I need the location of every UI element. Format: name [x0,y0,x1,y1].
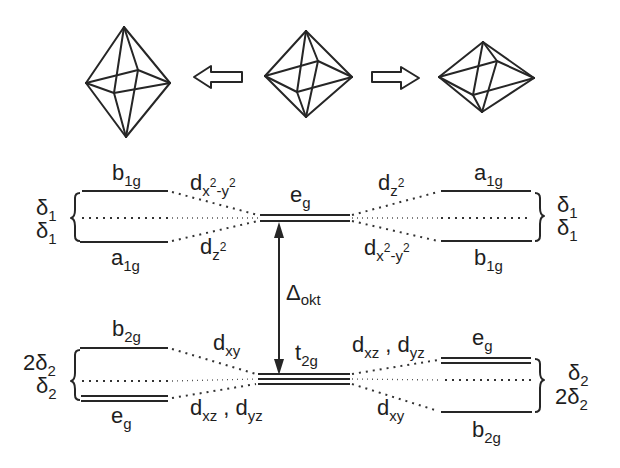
label-dz2-right: dz2 [378,170,405,199]
label-center-t2g: t2g [295,340,318,369]
octahedron-elongated [86,27,170,137]
label-left-b1g: b1g [112,160,141,189]
eg-splitting: b1g a1g dx2-y2 dz2 δ1 δ1 eg a1g b1g dz2 … [36,160,578,274]
connector [352,379,438,380]
connector [172,192,258,215]
arrow-left-icon [194,66,242,88]
crystal-field-diagram: b1g a1g dx2-y2 dz2 δ1 δ1 eg a1g b1g dz2 … [0,0,620,468]
arrow-right-icon [372,67,419,89]
label-left-b2g: b2g [112,316,141,345]
label-dxz-dyz-right: dxz , dyz [352,332,425,361]
label-right-b2g: b2g [472,417,501,446]
label-left-eg: eg [111,403,132,432]
arrowhead-up-icon [274,222,284,238]
label-center-eg: eg [290,182,311,211]
label-delta-okt: Δokt [286,280,322,308]
label-dz2-left: dz2 [200,234,227,263]
t2g-splitting: b2g eg dxy dxz , dyz 2δ2 δ2 t2g eg b2g d… [23,316,589,446]
label-right-a1g: a1g [474,160,503,189]
octahedron-compressed [439,42,534,112]
label-dxy-left: dxy [213,330,241,359]
arrowhead-down-icon [274,359,284,375]
label-left-a1g: a1g [111,245,140,274]
connector [352,360,438,374]
connector [172,379,256,381]
brace-left-upper [71,193,80,241]
label-dx2y2-left: dx2-y2 [190,170,236,199]
brace-left-lower [71,350,80,400]
brace-right-upper [535,193,544,241]
brace-right-lower [535,359,544,412]
octahedron-regular [265,31,352,117]
connector [172,221,258,241]
label-right-eg: eg [472,325,493,354]
label-right-b1g: b1g [474,245,503,274]
label-dx2y2-right: dx2-y2 [364,235,410,264]
label-dxz-dyz-left: dxz , dyz [190,395,263,424]
